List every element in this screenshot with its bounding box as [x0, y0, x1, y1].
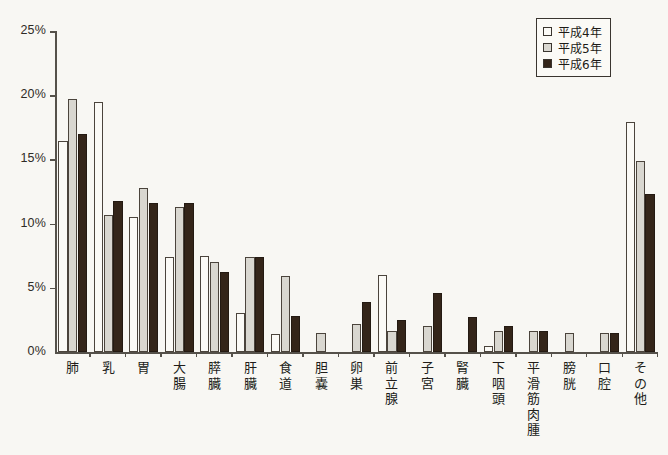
x-axis-label: 肝 臓 [232, 360, 267, 391]
x-tick-mark [160, 352, 161, 357]
chart-legend: 平成4年平成5年平成6年 [536, 18, 611, 77]
bar [397, 320, 406, 352]
x-tick-mark [586, 352, 587, 357]
bar [220, 272, 229, 352]
bar [362, 302, 371, 352]
x-tick-mark [622, 352, 623, 357]
legend-swatch-icon [543, 59, 552, 68]
legend-label: 平成5年 [558, 39, 602, 56]
x-tick-mark [196, 352, 197, 357]
bar [236, 313, 245, 352]
bar [175, 207, 184, 352]
bar [281, 276, 290, 352]
bar [129, 217, 138, 352]
y-tick-label: 0% [28, 344, 46, 358]
bar [504, 326, 513, 352]
bar [494, 331, 503, 352]
x-tick-mark [551, 352, 552, 357]
x-tick-mark [231, 352, 232, 357]
bar-group [129, 31, 158, 352]
bar [184, 203, 193, 352]
x-axis-label: 食 道 [268, 360, 303, 391]
x-axis-label: 膀 胱 [552, 360, 587, 391]
legend-label: 平成4年 [558, 23, 602, 40]
bar [529, 331, 538, 352]
bar-group [449, 31, 478, 352]
y-tick-label: 20% [20, 87, 46, 101]
bar-group [200, 31, 229, 352]
y-tick-label: 25% [20, 23, 46, 37]
x-tick-mark [338, 352, 339, 357]
bar [94, 102, 103, 352]
x-axis-label: 平 滑 筋 肉 腫 [516, 360, 551, 438]
x-axis-label: 前 立 腺 [374, 360, 409, 407]
bar [316, 333, 325, 352]
bar [378, 275, 387, 352]
bar [645, 194, 654, 352]
x-tick-mark [657, 352, 658, 357]
x-axis-label: 口 腔 [587, 360, 622, 391]
x-axis-label: 胃 [126, 360, 161, 376]
bar-group [378, 31, 407, 352]
x-axis-label: 膵 臓 [197, 360, 232, 391]
y-tick-label: 15% [20, 151, 46, 165]
x-tick-mark [302, 352, 303, 357]
bar [113, 201, 122, 353]
bar [352, 324, 361, 352]
bar [600, 333, 609, 352]
bar [271, 334, 280, 352]
bar-group [484, 31, 513, 352]
bar-group [236, 31, 265, 352]
bar [255, 257, 264, 352]
bar [291, 316, 300, 352]
bar [104, 215, 113, 352]
bar-group [413, 31, 442, 352]
bar [139, 188, 148, 352]
plot-area [55, 31, 658, 352]
x-tick-mark [373, 352, 374, 357]
bar [610, 333, 619, 352]
bar [539, 331, 548, 352]
chart-page: 0%5%10%15%20%25% 肺乳胃大 腸膵 臓肝 臓食 道胆 嚢卵 巣前 … [0, 0, 668, 455]
legend-swatch-icon [543, 27, 552, 36]
bar-group [58, 31, 87, 352]
bar-group [94, 31, 123, 352]
x-axis-label: 肺 [55, 360, 90, 376]
legend-item: 平成6年 [543, 56, 602, 71]
bar [484, 346, 493, 352]
x-axis-label: 下 咽 頭 [481, 360, 516, 407]
x-tick-mark [444, 352, 445, 357]
y-axis-labels: 0%5%10%15%20%25% [0, 0, 46, 455]
x-axis-label: 腎 臓 [445, 360, 480, 391]
x-axis-line [55, 352, 658, 354]
bar [387, 331, 396, 352]
bar [149, 203, 158, 352]
bar [423, 326, 432, 352]
x-tick-mark [409, 352, 410, 357]
x-axis-label: 卵 巣 [339, 360, 374, 391]
x-axis-label: 大 腸 [161, 360, 196, 391]
x-tick-mark [125, 352, 126, 357]
bar [58, 141, 67, 352]
bar [565, 333, 574, 352]
bar [245, 257, 254, 352]
bar [165, 257, 174, 352]
y-tick-label: 10% [20, 216, 46, 230]
legend-item: 平成4年 [543, 24, 602, 39]
x-tick-mark [515, 352, 516, 357]
bar-group [626, 31, 655, 352]
legend-swatch-icon [543, 43, 552, 52]
bar-group [519, 31, 548, 352]
x-axis-label: 乳 [90, 360, 125, 376]
bar [68, 99, 77, 352]
bar [468, 317, 477, 352]
bar-group [590, 31, 619, 352]
bar-group [271, 31, 300, 352]
x-axis-label: 子 宮 [410, 360, 445, 391]
bar [626, 122, 635, 352]
bar-group [342, 31, 371, 352]
x-axis-label: 胆 嚢 [303, 360, 338, 391]
bar-group [307, 31, 336, 352]
x-tick-mark [480, 352, 481, 357]
legend-label: 平成6年 [558, 55, 602, 72]
